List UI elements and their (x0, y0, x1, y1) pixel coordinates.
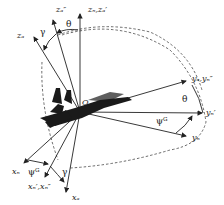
psi-right-arc (176, 116, 192, 133)
angle-theta-right: θ (182, 95, 187, 104)
label-xn: xₙ (12, 168, 20, 176)
angle-gamma-top: γ (40, 28, 45, 37)
axis-xb (66, 112, 80, 192)
gamma-top-arc (44, 34, 56, 50)
angle-psi-right: ψᴳ (156, 117, 168, 126)
label-yn: yₙ (192, 134, 200, 142)
angle-psi-bottom: ψᴳ (28, 168, 40, 177)
angle-theta-top: θ (66, 20, 71, 29)
psi-bottom-arc (28, 160, 48, 164)
axis-yn (80, 112, 186, 136)
label-xn-prime-dprime: xₙ′,xₙ″ (28, 183, 51, 191)
axis-yn-prime (80, 112, 202, 113)
origin-label: O (82, 99, 89, 107)
label-zn-zb-prime: zₙ,zₐ′ (88, 6, 107, 14)
theta-top-arc (57, 29, 78, 33)
label-xb: xₐ (72, 194, 80, 202)
aircraft-icon (40, 88, 132, 128)
label-zb: zₐ (17, 32, 24, 40)
label-zb-dprime: zₐ″ (56, 6, 66, 14)
label-yb-yn-dprime: yₐ,yₙ″ (192, 75, 213, 83)
angle-gamma-bottom: γ (62, 168, 67, 177)
label-yn-prime: yₙ′ (206, 109, 216, 117)
